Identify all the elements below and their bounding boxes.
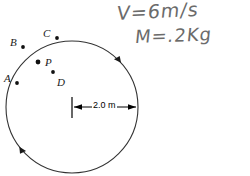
diagram-canvas: A B C P D 2.0 m V=6m/s M=.2Kg (0, 0, 250, 176)
dimension-arrow-right (128, 104, 136, 110)
point-dot-D (51, 70, 55, 74)
point-label-D: D (57, 77, 65, 88)
point-dot-A (15, 81, 19, 85)
point-dot-P (36, 60, 41, 65)
point-dots (15, 36, 59, 85)
direction-arrow-upper-right (114, 55, 124, 65)
handwritten-velocity-note: V=6m/s (116, 0, 200, 23)
dimension-label: 2.0 m (92, 101, 117, 110)
point-dot-B (21, 45, 25, 49)
dimension-arrow-left (74, 104, 82, 110)
point-label-C: C (43, 28, 50, 39)
handwritten-mass-note: M=.2Kg (134, 25, 213, 46)
point-label-B: B (10, 37, 17, 48)
point-dot-C (55, 36, 59, 40)
point-label-P: P (45, 57, 52, 68)
point-label-A: A (4, 73, 11, 84)
